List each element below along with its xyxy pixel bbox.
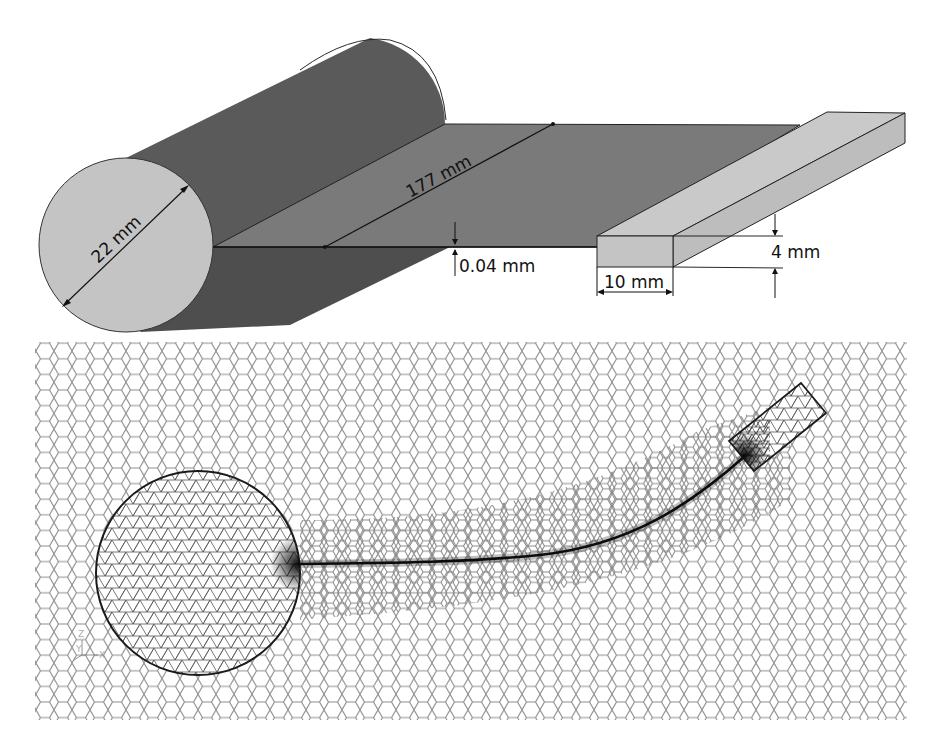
bar-front-face <box>597 236 673 267</box>
mesh-2d-panel: Z Y X <box>35 342 907 720</box>
geometry-3d-panel: 22 mm 177 mm 0.04 mm 10 mm <box>39 38 905 332</box>
axis-x-label: X <box>99 650 105 660</box>
dimension-bar-width: 10 mm <box>597 267 673 296</box>
figure: 22 mm 177 mm 0.04 mm 10 mm <box>0 0 932 740</box>
axis-z-label: Z <box>78 629 84 639</box>
axis-y-label: Y <box>75 644 82 654</box>
label-bar-width: 10 mm <box>604 272 664 292</box>
label-bar-height: 4 mm <box>771 242 820 262</box>
label-sheet-thickness: 0.04 mm <box>459 256 535 276</box>
